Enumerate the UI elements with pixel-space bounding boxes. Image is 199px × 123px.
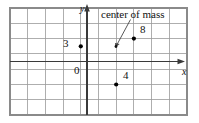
point-label-3: 3: [63, 38, 69, 49]
point-marker-3: [79, 44, 83, 48]
point-label-8: 8: [140, 24, 146, 35]
coordinate-grid-figure: 3 8 4 0 y x center of mass: [0, 0, 199, 123]
point-marker-4: [114, 82, 118, 86]
x-axis-label: x: [182, 67, 186, 77]
point-marker-8: [132, 37, 136, 41]
x-axis-arrowhead: [178, 59, 186, 65]
point-label-4: 4: [123, 70, 129, 81]
center-of-mass-annotation-label: center of mass: [101, 9, 165, 20]
center-of-mass-point: [115, 45, 118, 48]
origin-label: 0: [74, 65, 80, 76]
plot-canvas: [0, 0, 199, 123]
y-axis-label: y: [80, 4, 84, 14]
